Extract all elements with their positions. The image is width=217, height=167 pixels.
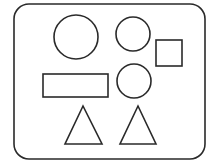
triangle-left	[65, 106, 102, 144]
rectangle	[43, 74, 108, 97]
small-circle-top	[116, 17, 150, 51]
large-circle	[54, 15, 98, 59]
square	[156, 40, 182, 66]
triangle-right	[120, 106, 156, 144]
shapes-diagram	[0, 0, 217, 167]
small-circle-middle	[117, 64, 151, 98]
